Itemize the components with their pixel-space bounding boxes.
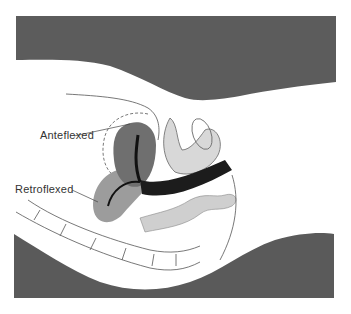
posterior-outline xyxy=(220,175,236,260)
anteflexed-label: Anteflexed xyxy=(40,129,94,141)
uterus-position-diagram: Anteflexed Retroflexed xyxy=(0,0,351,314)
lower-dark-region xyxy=(14,233,334,298)
anatomy-illustration xyxy=(0,0,351,314)
rectum xyxy=(140,194,236,232)
retroflexed-leader-line xyxy=(72,190,98,202)
upper-dark-region xyxy=(16,16,336,100)
retroflexed-label: Retroflexed xyxy=(15,183,73,195)
